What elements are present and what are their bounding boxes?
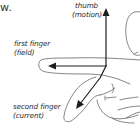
- first-finger-label: first finger (field): [14, 40, 50, 57]
- second-finger-label: second finger (current): [13, 103, 61, 120]
- thumb-arrowhead-icon: [103, 8, 110, 16]
- second-finger-label-line2: (current): [13, 112, 61, 121]
- second-finger-arrowhead-icon: [76, 100, 84, 109]
- first-finger-label-line2: (field): [14, 49, 50, 58]
- first-finger-arrowhead-icon: [48, 63, 56, 70]
- thumb-label: thumb (motion): [71, 2, 102, 19]
- thumb-label-line2: (motion): [71, 11, 102, 20]
